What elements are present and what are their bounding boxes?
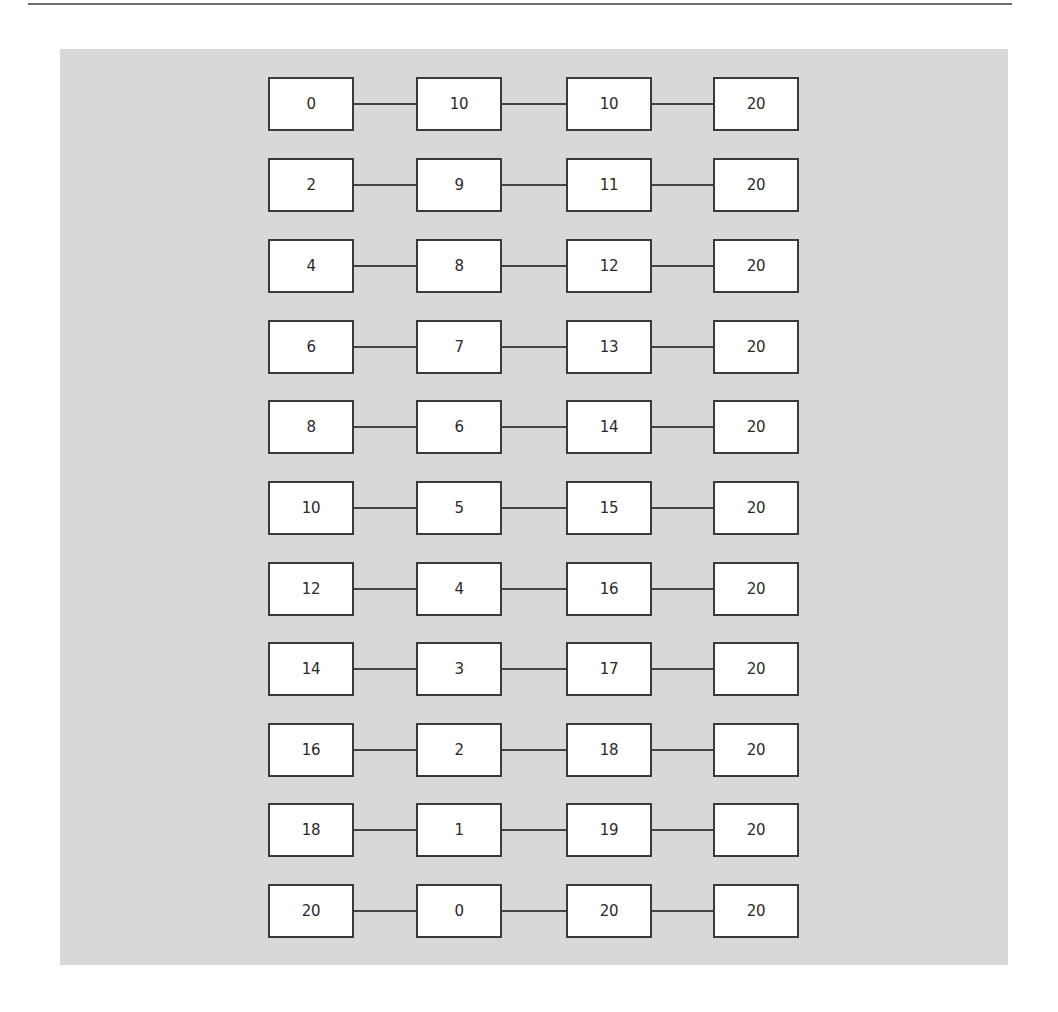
node-box: 2 (268, 158, 354, 212)
chain-row-9: 16 2 18 20 (0, 723, 1058, 777)
node-box: 0 (268, 77, 354, 131)
node-box: 20 (713, 481, 799, 535)
node-box: 20 (566, 884, 652, 938)
node-box: 7 (416, 320, 502, 374)
connector-line (652, 507, 713, 509)
node-box: 20 (713, 158, 799, 212)
node-box: 2 (416, 723, 502, 777)
node-box: 13 (566, 320, 652, 374)
connector-line (354, 346, 416, 348)
node-box: 20 (713, 562, 799, 616)
connector-line (354, 749, 416, 751)
connector-line (354, 507, 416, 509)
connector-line (502, 103, 566, 105)
node-box: 20 (713, 803, 799, 857)
connector-line (354, 184, 416, 186)
node-box: 10 (268, 481, 354, 535)
chain-row-4: 6 7 13 20 (0, 320, 1058, 374)
connector-line (354, 265, 416, 267)
connector-line (354, 829, 416, 831)
node-box: 12 (268, 562, 354, 616)
connector-line (652, 265, 713, 267)
connector-line (354, 588, 416, 590)
connector-line (502, 749, 566, 751)
connector-line (652, 103, 713, 105)
node-box: 18 (566, 723, 652, 777)
node-box: 11 (566, 158, 652, 212)
node-box: 14 (268, 642, 354, 696)
node-box: 20 (713, 77, 799, 131)
connector-line (652, 829, 713, 831)
node-box: 20 (268, 884, 354, 938)
node-box: 8 (268, 400, 354, 454)
connector-line (354, 426, 416, 428)
box-chain-diagram: 0 10 10 20 2 9 11 20 4 8 12 20 6 7 13 20… (0, 0, 1058, 1012)
node-box: 17 (566, 642, 652, 696)
node-box: 19 (566, 803, 652, 857)
chain-row-11: 20 0 20 20 (0, 884, 1058, 938)
node-box: 10 (416, 77, 502, 131)
node-box: 6 (416, 400, 502, 454)
connector-line (502, 668, 566, 670)
node-box: 15 (566, 481, 652, 535)
connector-line (652, 184, 713, 186)
connector-line (652, 910, 713, 912)
node-box: 8 (416, 239, 502, 293)
node-box: 20 (713, 400, 799, 454)
connector-line (652, 668, 713, 670)
chain-row-2: 2 9 11 20 (0, 158, 1058, 212)
connector-line (354, 668, 416, 670)
connector-line (502, 426, 566, 428)
chain-row-3: 4 8 12 20 (0, 239, 1058, 293)
node-box: 16 (566, 562, 652, 616)
connector-line (502, 829, 566, 831)
node-box: 20 (713, 642, 799, 696)
chain-row-1: 0 10 10 20 (0, 77, 1058, 131)
node-box: 20 (713, 320, 799, 374)
connector-line (502, 346, 566, 348)
chain-row-10: 18 1 19 20 (0, 803, 1058, 857)
node-box: 9 (416, 158, 502, 212)
connector-line (502, 265, 566, 267)
connector-line (652, 588, 713, 590)
node-box: 20 (713, 884, 799, 938)
node-box: 4 (268, 239, 354, 293)
node-box: 10 (566, 77, 652, 131)
connector-line (502, 910, 566, 912)
node-box: 18 (268, 803, 354, 857)
connector-line (502, 507, 566, 509)
node-box: 0 (416, 884, 502, 938)
connector-line (652, 749, 713, 751)
node-box: 14 (566, 400, 652, 454)
node-box: 12 (566, 239, 652, 293)
connector-line (652, 346, 713, 348)
node-box: 1 (416, 803, 502, 857)
connector-line (354, 103, 416, 105)
node-box: 4 (416, 562, 502, 616)
chain-row-5: 8 6 14 20 (0, 400, 1058, 454)
node-box: 16 (268, 723, 354, 777)
node-box: 6 (268, 320, 354, 374)
node-box: 5 (416, 481, 502, 535)
connector-line (502, 588, 566, 590)
chain-row-6: 10 5 15 20 (0, 481, 1058, 535)
chain-row-7: 12 4 16 20 (0, 562, 1058, 616)
chain-row-8: 14 3 17 20 (0, 642, 1058, 696)
node-box: 20 (713, 239, 799, 293)
connector-line (354, 910, 416, 912)
node-box: 3 (416, 642, 502, 696)
node-box: 20 (713, 723, 799, 777)
connector-line (502, 184, 566, 186)
connector-line (652, 426, 713, 428)
